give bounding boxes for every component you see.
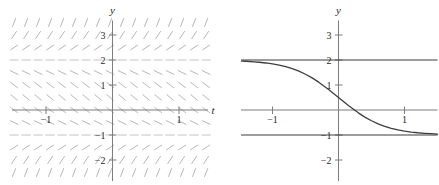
slope-mark: [145, 19, 148, 27]
slope-mark: [58, 71, 66, 75]
slope-mark: [59, 82, 66, 87]
slope-mark: [83, 95, 89, 100]
slope-mark: [130, 71, 138, 75]
slope-mark: [157, 169, 160, 177]
slope-mark: [190, 71, 198, 75]
slope-mark: [142, 121, 150, 125]
slope-mark: [167, 95, 173, 100]
slope-mark: [204, 31, 209, 38]
slope-mark: [203, 95, 209, 100]
right-y-axis-label: y: [335, 4, 341, 16]
slope-mark: [156, 156, 161, 163]
slope-mark: [10, 71, 18, 75]
slope-field-axes: [12, 21, 208, 182]
slope-mark: [192, 31, 197, 38]
slope-mark: [121, 169, 124, 177]
slope-mark: [156, 31, 161, 38]
slope-mark: [82, 71, 90, 75]
y-tick-label: −1: [321, 130, 332, 141]
slope-mark: [205, 19, 208, 27]
slope-mark: [95, 95, 101, 100]
slope-mark: [154, 71, 162, 75]
slope-mark: [35, 45, 42, 50]
slope-mark: [145, 169, 148, 177]
slope-mark: [193, 169, 196, 177]
slope-mark: [84, 156, 89, 163]
slope-mark: [121, 19, 124, 27]
slope-mark: [178, 71, 186, 75]
slope-mark: [48, 156, 53, 163]
slope-mark: [11, 95, 17, 100]
slope-mark: [13, 19, 16, 27]
slope-mark: [97, 19, 100, 27]
slope-mark: [131, 145, 138, 150]
slope-mark: [72, 31, 77, 38]
figure-canvas: 321−1−2−11 y t 321−1−2−11 y: [0, 0, 439, 185]
slope-mark: [203, 82, 210, 87]
slope-mark: [191, 45, 198, 50]
slope-mark: [180, 31, 185, 38]
slope-mark: [83, 45, 90, 50]
left-t-axis-label: t: [212, 104, 216, 116]
slope-field-marks: [10, 19, 211, 177]
slope-mark: [36, 31, 41, 38]
slope-mark: [71, 95, 77, 100]
slope-mark: [35, 82, 42, 87]
slope-mark: [11, 145, 18, 150]
slope-mark: [168, 31, 173, 38]
slope-mark: [119, 82, 126, 87]
slope-mark: [203, 45, 210, 50]
slope-mark: [34, 71, 42, 75]
slope-mark: [131, 95, 137, 100]
slope-mark: [49, 169, 52, 177]
slope-mark: [167, 82, 174, 87]
left-y-axis-label: y: [109, 4, 115, 16]
slope-mark: [83, 82, 90, 87]
slope-mark: [204, 156, 209, 163]
slope-mark: [36, 156, 41, 163]
slope-mark: [143, 95, 149, 100]
slope-mark: [83, 145, 90, 150]
slope-mark: [35, 95, 41, 100]
solution-plot-axes: [241, 21, 438, 182]
slope-mark: [167, 45, 174, 50]
slope-mark: [11, 45, 18, 50]
slope-mark: [71, 82, 78, 87]
slope-mark: [94, 71, 102, 75]
slope-mark: [202, 71, 210, 75]
slope-mark: [142, 71, 150, 75]
slope-mark: [73, 19, 76, 27]
y-tick-label: 3: [101, 30, 106, 41]
slope-mark: [47, 45, 54, 50]
slope-mark: [132, 156, 137, 163]
slope-mark: [37, 19, 40, 27]
slope-mark: [143, 45, 150, 50]
slope-mark: [180, 156, 185, 163]
y-tick-label: −2: [321, 155, 332, 166]
slope-mark: [118, 71, 126, 75]
slope-mark: [119, 95, 125, 100]
t-tick-label: 1: [402, 114, 407, 125]
y-tick-label: 3: [327, 30, 332, 41]
y-tick-label: 1: [101, 80, 106, 91]
t-tick-label: 1: [177, 114, 182, 125]
slope-mark: [179, 45, 186, 50]
slope-mark: [133, 169, 136, 177]
slope-mark: [13, 169, 16, 177]
slope-mark: [132, 31, 137, 38]
slope-mark: [82, 121, 90, 125]
slope-mark: [191, 82, 198, 87]
slope-mark: [203, 145, 210, 150]
slope-mark: [70, 71, 78, 75]
slope-mark: [25, 19, 28, 27]
slope-mark: [97, 169, 100, 177]
slope-mark: [133, 19, 136, 27]
slope-mark: [23, 45, 30, 50]
t-tick-label: −1: [267, 114, 278, 125]
slope-mark: [84, 31, 89, 38]
slope-mark: [49, 19, 52, 27]
slope-mark: [72, 156, 77, 163]
direction-field-figure: 321−1−2−11 y t 321−1−2−11 y: [0, 0, 439, 185]
slope-mark: [167, 145, 174, 150]
slope-mark: [35, 145, 42, 150]
